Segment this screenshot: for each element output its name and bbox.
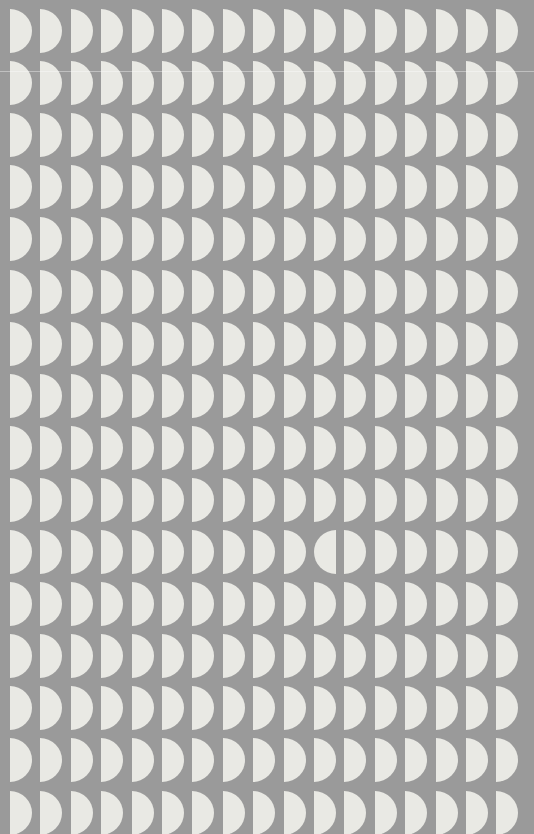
half-disc-cell — [40, 113, 62, 157]
half-disc-cell — [71, 634, 93, 678]
half-disc-cell — [405, 322, 427, 366]
half-disc-cell — [192, 270, 214, 314]
half-disc-cell — [496, 426, 518, 470]
half-disc-cell — [375, 61, 397, 105]
half-disc-cell — [192, 686, 214, 730]
half-disc-cell — [436, 374, 458, 418]
half-disc-cell — [436, 9, 458, 53]
half-disc-cell — [192, 322, 214, 366]
half-disc-cell — [162, 478, 184, 522]
half-disc-cell — [71, 791, 93, 834]
half-disc-cell — [253, 426, 275, 470]
half-disc-cell — [10, 374, 32, 418]
half-disc-cell — [496, 322, 518, 366]
half-disc-cell — [314, 426, 336, 470]
half-disc-cell — [284, 113, 306, 157]
half-disc-cell — [405, 686, 427, 730]
half-disc-cell — [162, 374, 184, 418]
half-disc-cell — [466, 634, 488, 678]
half-disc-cell — [375, 113, 397, 157]
mirrored-half-disc-anomaly — [314, 530, 336, 574]
half-disc-cell — [496, 686, 518, 730]
half-disc-grid — [0, 0, 534, 834]
half-disc-cell — [162, 270, 184, 314]
half-disc-cell — [314, 791, 336, 834]
half-disc-cell — [466, 426, 488, 470]
half-disc-cell — [101, 9, 123, 53]
half-disc-cell — [223, 530, 245, 574]
half-disc-cell — [344, 374, 366, 418]
half-disc-cell — [71, 582, 93, 626]
half-disc-cell — [71, 113, 93, 157]
half-disc-cell — [223, 686, 245, 730]
half-disc-cell — [436, 165, 458, 209]
half-disc-cell — [496, 478, 518, 522]
half-disc-cell — [101, 61, 123, 105]
half-disc-cell — [40, 374, 62, 418]
half-disc-cell — [40, 582, 62, 626]
half-disc-cell — [101, 791, 123, 834]
half-disc-cell — [496, 9, 518, 53]
half-disc-cell — [223, 322, 245, 366]
half-disc-cell — [466, 738, 488, 782]
half-disc-cell — [253, 322, 275, 366]
half-disc-cell — [284, 478, 306, 522]
half-disc-cell — [192, 426, 214, 470]
half-disc-cell — [375, 634, 397, 678]
half-disc-cell — [436, 322, 458, 366]
half-disc-cell — [192, 61, 214, 105]
half-disc-cell — [223, 582, 245, 626]
half-disc-cell — [223, 9, 245, 53]
half-disc-cell — [314, 165, 336, 209]
half-disc-cell — [314, 478, 336, 522]
half-disc-cell — [284, 738, 306, 782]
half-disc-cell — [162, 61, 184, 105]
half-disc-cell — [192, 217, 214, 261]
half-disc-cell — [101, 217, 123, 261]
half-disc-cell — [132, 374, 154, 418]
half-disc-cell — [496, 270, 518, 314]
half-disc-cell — [223, 113, 245, 157]
half-disc-cell — [344, 61, 366, 105]
half-disc-cell — [40, 322, 62, 366]
half-disc-cell — [253, 61, 275, 105]
half-disc-cell — [375, 426, 397, 470]
half-disc-cell — [192, 478, 214, 522]
half-disc-cell — [192, 165, 214, 209]
half-disc-cell — [466, 374, 488, 418]
half-disc-cell — [344, 634, 366, 678]
half-disc-cell — [375, 322, 397, 366]
half-disc-cell — [40, 530, 62, 574]
half-disc-cell — [314, 61, 336, 105]
half-disc-cell — [405, 738, 427, 782]
half-disc-cell — [375, 791, 397, 834]
half-disc-cell — [436, 738, 458, 782]
half-disc-cell — [284, 634, 306, 678]
half-disc-cell — [466, 582, 488, 626]
half-disc-cell — [223, 426, 245, 470]
half-disc-cell — [162, 165, 184, 209]
half-disc-cell — [101, 634, 123, 678]
half-disc-cell — [375, 270, 397, 314]
half-disc-cell — [436, 634, 458, 678]
half-disc-cell — [162, 582, 184, 626]
half-disc-cell — [101, 530, 123, 574]
half-disc-cell — [71, 530, 93, 574]
half-disc-cell — [405, 634, 427, 678]
half-disc-cell — [375, 165, 397, 209]
half-disc-cell — [466, 322, 488, 366]
half-disc-cell — [162, 530, 184, 574]
half-disc-cell — [436, 217, 458, 261]
half-disc-cell — [223, 217, 245, 261]
half-disc-cell — [375, 478, 397, 522]
half-disc-cell — [162, 113, 184, 157]
half-disc-cell — [496, 582, 518, 626]
half-disc-cell — [253, 530, 275, 574]
half-disc-cell — [496, 634, 518, 678]
half-disc-cell — [496, 738, 518, 782]
half-disc-cell — [436, 530, 458, 574]
half-disc-cell — [223, 61, 245, 105]
half-disc-cell — [101, 270, 123, 314]
half-disc-cell — [284, 165, 306, 209]
half-disc-cell — [40, 165, 62, 209]
